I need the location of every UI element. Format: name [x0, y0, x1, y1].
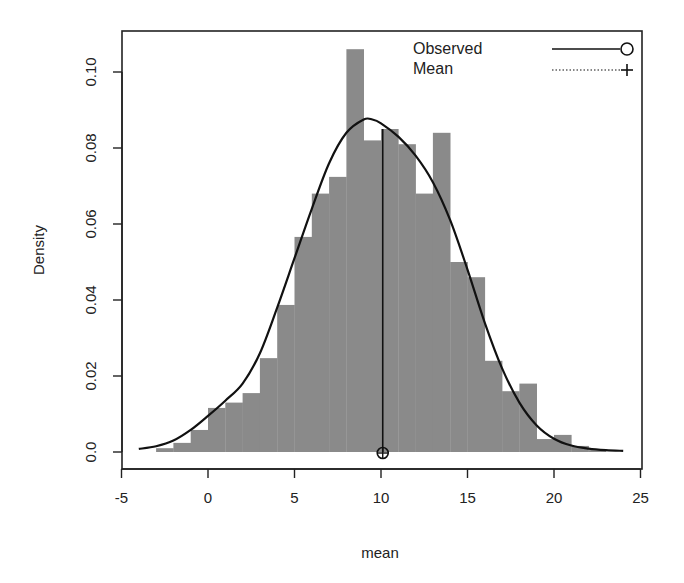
histogram-bar [225, 403, 243, 452]
histogram-bar [260, 358, 278, 452]
x-axis: -50510152025 [115, 469, 649, 506]
histogram-bar [416, 194, 434, 452]
y-axis-title: Density [30, 224, 47, 275]
open-circle-icon [621, 43, 633, 55]
y-tick-label: 0.04 [82, 285, 99, 314]
histogram-bar [156, 448, 174, 452]
x-tick-label: 25 [632, 489, 649, 506]
histogram-chart: -50510152025 0.00.020.040.060.080.10 mea… [0, 0, 684, 583]
histogram-bar [295, 237, 313, 452]
histogram-bar [243, 393, 261, 452]
histogram-bar [312, 194, 330, 452]
legend-label-observed: Observed [413, 40, 482, 57]
y-tick-label: 0.0 [82, 442, 99, 463]
histogram-bar [485, 361, 503, 452]
histogram-bar [364, 140, 382, 452]
histogram-bar [381, 129, 399, 452]
y-tick-label: 0.06 [82, 209, 99, 238]
x-tick-label: 5 [290, 489, 298, 506]
x-tick-label: -5 [115, 489, 128, 506]
x-tick-label: 20 [546, 489, 563, 506]
histogram-bars [156, 49, 606, 452]
histogram-bar [191, 430, 209, 452]
y-tick-label: 0.02 [82, 361, 99, 390]
histogram-bar [433, 133, 451, 452]
histogram-bar [468, 277, 486, 452]
x-axis-title: mean [361, 544, 399, 561]
y-tick-label: 0.08 [82, 133, 99, 162]
histogram-bar [346, 49, 364, 452]
histogram-bar [519, 384, 537, 452]
legend: Observed Mean [413, 40, 633, 77]
y-axis: 0.00.020.040.060.080.10 [82, 57, 122, 462]
legend-label-mean: Mean [413, 60, 453, 77]
histogram-bar [450, 262, 468, 452]
y-tick-label: 0.10 [82, 57, 99, 86]
histogram-bar [329, 177, 347, 452]
x-tick-label: 10 [373, 489, 390, 506]
histogram-bar [277, 305, 295, 452]
x-tick-label: 0 [204, 489, 212, 506]
mean-marker-icon [377, 448, 388, 459]
plus-icon [621, 64, 633, 76]
histogram-bar [537, 439, 555, 452]
x-tick-label: 15 [459, 489, 476, 506]
histogram-bar [398, 144, 416, 452]
histogram-bar [173, 443, 191, 452]
